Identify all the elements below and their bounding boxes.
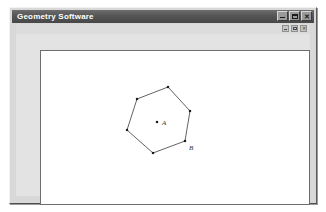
title-bar[interactable]: Geometry Software ✕ xyxy=(12,10,314,23)
label-b: B xyxy=(189,144,194,152)
application-window: Geometry Software ✕ xyxy=(9,7,317,204)
label-a: A xyxy=(161,119,167,127)
point-labels: AB xyxy=(161,119,194,152)
vertex-4[interactable] xyxy=(184,140,186,142)
center-point xyxy=(156,121,158,123)
mdi-child-title-bar[interactable]: ✕ xyxy=(16,24,310,34)
vertex-3[interactable] xyxy=(152,152,154,154)
window-controls: ✕ xyxy=(277,11,312,21)
drawing-canvas[interactable]: AB xyxy=(40,50,310,205)
mdi-child-controls: ✕ xyxy=(282,25,307,32)
child-close-button[interactable]: ✕ xyxy=(300,25,307,32)
child-minimize-button[interactable] xyxy=(282,25,289,32)
minimize-button[interactable] xyxy=(277,11,288,21)
child-restore-button[interactable] xyxy=(291,25,298,32)
maximize-icon xyxy=(292,14,298,19)
hexagon-shape[interactable] xyxy=(127,87,190,153)
vertex-0[interactable] xyxy=(167,86,169,88)
child-restore-icon xyxy=(293,27,297,30)
child-close-icon: ✕ xyxy=(302,26,306,31)
minimize-icon xyxy=(280,17,285,18)
center-dot[interactable] xyxy=(156,121,158,123)
mdi-child-window: ✕ AB xyxy=(16,24,310,196)
vertex-2[interactable] xyxy=(126,129,128,131)
vertex-1[interactable] xyxy=(136,98,138,100)
close-button[interactable]: ✕ xyxy=(301,11,312,21)
vertex-5[interactable] xyxy=(189,110,191,112)
geometry-canvas-svg: AB xyxy=(41,51,309,204)
close-icon: ✕ xyxy=(304,13,310,20)
maximize-button[interactable] xyxy=(289,11,300,21)
window-title: Geometry Software xyxy=(12,10,94,23)
screen: Geometry Software ✕ xyxy=(0,0,326,212)
hexagon-vertices xyxy=(126,86,191,154)
child-minimize-icon xyxy=(284,29,287,30)
